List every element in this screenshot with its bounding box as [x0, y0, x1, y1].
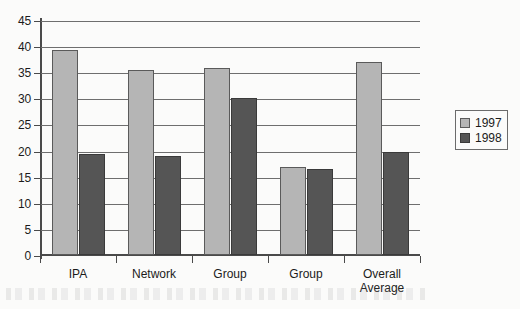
bar-1998-3: [307, 169, 333, 255]
chart-screenshot: 051015202530354045 IPANetworkGroupGroupO…: [0, 0, 520, 309]
y-tick-45: [34, 21, 41, 22]
y-axis-line: [40, 18, 42, 259]
x-tick-3: [268, 256, 269, 263]
bar-1998-4: [383, 152, 409, 255]
bar-1997-0: [52, 50, 78, 255]
gridline-40: [40, 47, 420, 48]
y-tick-40: [34, 47, 41, 48]
x-axis-label-3: Group: [289, 267, 322, 281]
x-tick-2: [192, 256, 193, 263]
bar-1997-2: [204, 68, 230, 255]
scan-artifact: [6, 288, 426, 300]
swatch-1997-icon: [460, 118, 470, 128]
x-tick-4: [344, 256, 345, 263]
y-tick-label-35: 35: [18, 66, 31, 80]
y-tick-label-30: 30: [18, 92, 31, 106]
x-tick-end: [420, 256, 421, 263]
bar-1998-2: [231, 98, 257, 255]
y-tick-20: [34, 152, 41, 153]
bar-1997-1: [128, 70, 154, 255]
bar-1997-4: [356, 62, 382, 255]
y-tick-label-40: 40: [18, 40, 31, 54]
plot-area: 051015202530354045 IPANetworkGroupGroupO…: [40, 21, 420, 256]
y-tick-label-20: 20: [18, 145, 31, 159]
x-axis-label-1: Network: [132, 267, 176, 281]
y-tick-label-0: 0: [25, 249, 31, 263]
swatch-1998-icon: [460, 133, 470, 143]
y-tick-label-10: 10: [18, 197, 31, 211]
y-tick-35: [34, 73, 41, 74]
y-tick-25: [34, 125, 41, 126]
x-tick-0: [40, 256, 41, 263]
y-tick-30: [34, 99, 41, 100]
legend-label-1998: 1998: [475, 131, 502, 145]
legend-label-1997: 1997: [475, 116, 502, 130]
y-tick-10: [34, 204, 41, 205]
y-tick-label-25: 25: [18, 118, 31, 132]
bar-1998-1: [155, 156, 181, 255]
legend-item-1998: 1998: [460, 130, 502, 145]
y-tick-label-45: 45: [18, 14, 31, 28]
bar-1997-3: [280, 167, 306, 255]
gridline-45: [40, 21, 420, 22]
x-tick-1: [116, 256, 117, 263]
x-axis-label-0: IPA: [69, 267, 87, 281]
y-tick-15: [34, 178, 41, 179]
y-tick-label-5: 5: [25, 223, 31, 237]
chart-legend: 19971998: [455, 110, 508, 150]
legend-item-1997: 1997: [460, 115, 502, 130]
y-tick-label-15: 15: [18, 171, 31, 185]
x-axis-label-2: Group: [213, 267, 246, 281]
y-tick-5: [34, 230, 41, 231]
bar-1998-0: [79, 154, 105, 255]
